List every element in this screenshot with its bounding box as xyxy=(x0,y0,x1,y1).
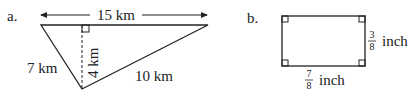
arrowhead-left-icon xyxy=(40,12,47,18)
figure-a: a. 15 km 4 km 7 km 10 km xyxy=(7,7,208,89)
right-angle-marker-br xyxy=(359,60,365,66)
width-unit-label: inch xyxy=(319,72,345,88)
right-angle-marker-bl xyxy=(282,60,288,66)
top-length-label: 15 km xyxy=(97,7,135,23)
triangle xyxy=(41,25,208,89)
rectangle xyxy=(282,16,365,66)
right-side-label: 10 km xyxy=(135,68,173,84)
width-fraction-numerator: 7 xyxy=(307,68,312,79)
height-unit-label: inch xyxy=(382,33,408,49)
width-fraction-denominator: 8 xyxy=(307,80,312,91)
height-fraction-numerator: 3 xyxy=(370,29,375,40)
left-side-label: 7 km xyxy=(27,60,58,76)
height-label: 4 km xyxy=(85,47,101,78)
right-angle-marker xyxy=(82,25,89,32)
diagram-canvas: a. 15 km 4 km 7 km 10 km b. 3 8 inch 7 8… xyxy=(0,0,416,96)
arrowhead-right-icon xyxy=(201,12,208,18)
figure-a-label: a. xyxy=(7,8,17,24)
right-angle-marker-tr xyxy=(359,16,365,22)
figure-b-label: b. xyxy=(247,10,258,26)
figure-b: b. 3 8 inch 7 8 inch xyxy=(247,10,408,91)
right-angle-marker-tl xyxy=(282,16,288,22)
height-fraction-denominator: 8 xyxy=(370,41,375,52)
